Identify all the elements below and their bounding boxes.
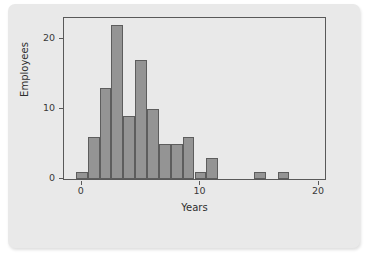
figure-card: 01020 01020 Years Employees bbox=[8, 4, 360, 248]
x-tick-label: 10 bbox=[193, 186, 205, 196]
histogram-bar bbox=[88, 137, 100, 179]
histogram-bar bbox=[123, 116, 135, 179]
y-axis: 01020 bbox=[38, 17, 63, 180]
histogram-bar bbox=[135, 60, 147, 179]
histogram-bar bbox=[147, 109, 159, 179]
histogram-bar bbox=[171, 144, 183, 179]
x-tick-label: 0 bbox=[78, 186, 84, 196]
histogram-bar bbox=[195, 172, 207, 179]
x-tick-label: 20 bbox=[312, 186, 324, 196]
histogram-bar bbox=[278, 172, 290, 179]
histogram-bar bbox=[183, 137, 195, 179]
histogram-bar bbox=[206, 158, 218, 179]
y-tick-label: 0 bbox=[49, 173, 55, 183]
histogram-bar bbox=[254, 172, 266, 179]
histogram-bar bbox=[76, 172, 88, 179]
histogram-bar bbox=[159, 144, 171, 179]
y-tick-mark bbox=[59, 108, 63, 109]
y-tick-mark bbox=[59, 178, 63, 179]
histogram-bar bbox=[111, 25, 123, 179]
x-axis-label: Years bbox=[63, 202, 326, 213]
plot-area bbox=[63, 17, 326, 180]
y-tick-label: 20 bbox=[43, 33, 55, 43]
histogram-bar bbox=[100, 88, 112, 179]
y-axis-label: Employees bbox=[19, 25, 30, 115]
y-tick-mark bbox=[59, 38, 63, 39]
y-tick-label: 10 bbox=[43, 103, 55, 113]
